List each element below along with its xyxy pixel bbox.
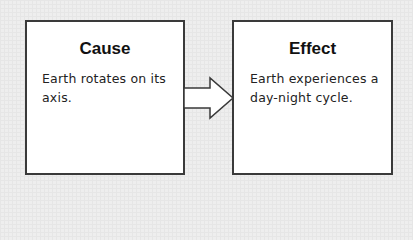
effect-text: Earth experiences a day-night cycle.	[250, 69, 385, 107]
right-arrow-icon	[183, 76, 235, 122]
cause-title: Cause	[27, 39, 183, 59]
cause-box: Cause Earth rotates on its axis.	[25, 20, 185, 175]
effect-title: Effect	[234, 39, 391, 59]
effect-box: Effect Earth experiences a day-night cyc…	[232, 20, 393, 175]
cause-text: Earth rotates on its axis.	[42, 69, 167, 107]
